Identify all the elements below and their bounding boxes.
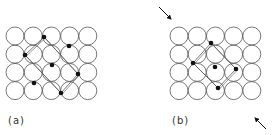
atom-circle <box>42 82 60 100</box>
interstitial-dot <box>42 35 47 40</box>
atom-circle <box>243 27 261 45</box>
panel-a-lattice <box>6 27 97 100</box>
atom-circle <box>79 45 97 63</box>
interstitial-dot <box>191 61 196 66</box>
interstitial-dot <box>32 81 37 86</box>
interstitial-dot <box>213 65 218 70</box>
atom-circle <box>243 63 261 81</box>
atom-circle <box>170 63 188 81</box>
atom-circle <box>225 82 243 100</box>
lattice-diagram <box>0 0 273 135</box>
atom-circle <box>79 82 97 100</box>
atom-circle <box>42 45 60 63</box>
direction-arrow-icon <box>159 7 171 19</box>
interstitial-dot <box>216 86 221 91</box>
atom-circle <box>6 63 24 81</box>
atom-circle <box>170 82 188 100</box>
atom-circle <box>79 63 97 81</box>
bond-line <box>26 56 62 94</box>
atom-circle <box>188 27 206 45</box>
panel-b-label: (b) <box>172 115 189 126</box>
atom-circle <box>6 27 24 45</box>
interstitial-dot <box>234 67 239 72</box>
interstitial-dot <box>50 63 55 68</box>
atom-circle <box>170 45 188 63</box>
atom-circle <box>6 45 24 63</box>
atom-circle <box>6 82 24 100</box>
atom-circle <box>61 27 79 45</box>
direction-arrow-icon <box>255 118 266 129</box>
interstitial-dot <box>59 91 64 96</box>
atom-circle <box>170 27 188 45</box>
atom-circle <box>225 27 243 45</box>
interstitial-dot <box>76 72 81 77</box>
bond-line <box>25 37 44 55</box>
interstitial-dot <box>67 44 72 49</box>
atom-circle <box>24 27 42 45</box>
atom-circle <box>243 45 261 63</box>
interstitial-dot <box>209 41 214 46</box>
bond-line <box>219 70 237 89</box>
atom-circle <box>79 27 97 45</box>
panel-b-lattice <box>159 7 266 129</box>
atom-circle <box>188 63 206 81</box>
panel-a-label: (a) <box>8 115 25 126</box>
bond-line <box>218 69 236 88</box>
atom-circle <box>24 63 42 81</box>
atom-circle <box>188 82 206 100</box>
interstitial-dot <box>23 53 28 58</box>
atom-circle <box>243 82 261 100</box>
